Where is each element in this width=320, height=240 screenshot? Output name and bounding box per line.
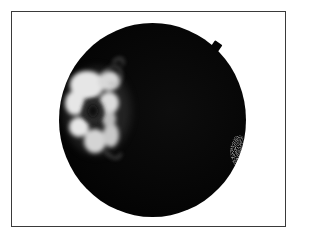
fundus-image — [59, 23, 246, 217]
lesion-overlay — [59, 23, 246, 217]
speckled-patch — [227, 133, 246, 169]
